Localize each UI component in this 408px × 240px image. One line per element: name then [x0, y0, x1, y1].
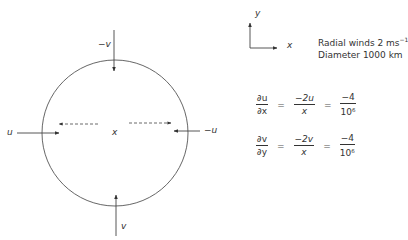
equation-du-dx: ∂u ∂x = −2u x = −4 106 — [253, 92, 359, 117]
axis-y-label: y — [255, 9, 260, 18]
label-v: v — [121, 222, 126, 231]
note-radial-winds: Radial winds 2 ms−1 — [318, 34, 408, 49]
notes-block: Radial winds 2 ms−1 Diameter 1000 km — [318, 34, 408, 61]
fraction-minus-4-over-10e6: −4 106 — [340, 133, 355, 158]
label-u: u — [7, 128, 13, 137]
fraction-du-dx: ∂u ∂x — [256, 93, 268, 116]
note-diameter: Diameter 1000 km — [318, 49, 408, 61]
label-minus-v: −v — [98, 40, 111, 49]
axis-x-label: x — [287, 41, 292, 50]
label-minus-u: −u — [204, 126, 217, 135]
fraction-minus-2v-over-x: −2v x — [294, 134, 315, 157]
fraction-dv-dy: ∂v ∂y — [256, 134, 268, 157]
equation-dv-dy: ∂v ∂y = −2v x = −4 106 — [253, 133, 358, 158]
fraction-minus-2u-over-x: −2u x — [294, 93, 315, 116]
fraction-minus-4-over-10e6: −4 106 — [340, 92, 355, 117]
center-x-label: x — [112, 128, 117, 137]
